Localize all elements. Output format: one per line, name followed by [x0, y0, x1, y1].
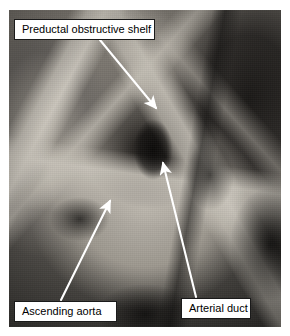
callout-preductal-obstructive-shelf: Preductal obstructive shelf [14, 19, 155, 40]
leader-line-overlay [0, 0, 290, 336]
callout-ascending-aorta: Ascending aorta [14, 301, 117, 322]
annotated-anatomy-figure: Preductal obstructive shelf Ascending ao… [0, 0, 290, 336]
callout-label-text: Ascending aorta [22, 305, 102, 317]
callout-arterial-duct: Arterial duct [181, 298, 251, 319]
callout-label-text: Preductal obstructive shelf [22, 23, 151, 35]
callout-label-text: Arterial duct [189, 302, 248, 314]
